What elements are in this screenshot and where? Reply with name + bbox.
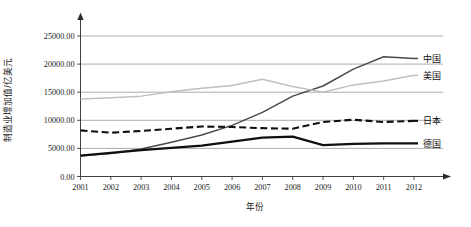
- y-tick-label: 10000.00: [44, 116, 75, 125]
- x-tick-label: 2002: [103, 183, 119, 192]
- chart-container: 0.005000.0010000.0015000.0020000.0025000…: [0, 0, 471, 227]
- x-tick-label: 2007: [254, 183, 270, 192]
- x-tick-label: 2003: [133, 183, 149, 192]
- x-tick-label: 2009: [315, 183, 331, 192]
- series-label-2: 日本: [423, 115, 441, 126]
- x-tick-label: 2001: [72, 183, 88, 192]
- x-tick-label: 2005: [194, 183, 210, 192]
- y-tick-label: 0.00: [60, 173, 74, 182]
- x-tick-label: 2004: [163, 183, 179, 192]
- y-tick-label: 25000.00: [44, 32, 75, 41]
- x-tick-label: 2012: [406, 183, 422, 192]
- series-label-3: 德国: [423, 138, 441, 149]
- y-tick-label: 15000.00: [44, 88, 75, 97]
- y-tick-label: 20000.00: [44, 60, 75, 69]
- line-chart: 0.005000.0010000.0015000.0020000.0025000…: [0, 0, 471, 227]
- x-axis-title: 年份: [246, 201, 264, 212]
- x-tick-label: 2010: [345, 183, 361, 192]
- x-tick-label: 2008: [285, 183, 301, 192]
- series-label-1: 美国: [423, 70, 441, 81]
- x-tick-label: 2006: [224, 183, 240, 192]
- y-tick-label: 5000.00: [48, 144, 75, 153]
- series-label-0: 中国: [423, 53, 441, 64]
- x-tick-label: 2011: [376, 183, 392, 192]
- y-axis-title: 制造业增加值/亿美元: [2, 58, 13, 141]
